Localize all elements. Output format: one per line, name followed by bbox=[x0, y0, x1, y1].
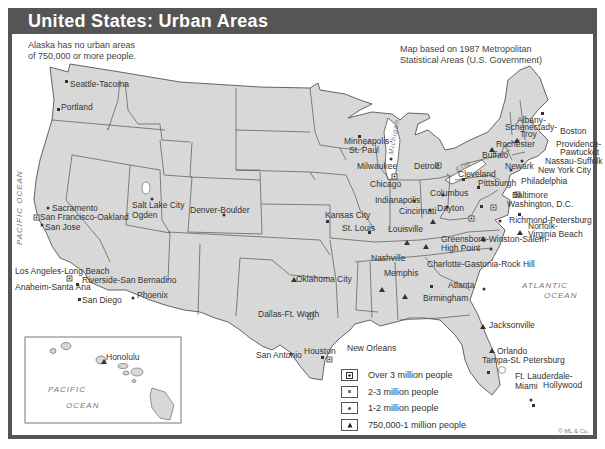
source-note-line-2: Statistical Areas (U.S. Government) bbox=[400, 55, 542, 66]
city-houston: Houston bbox=[304, 346, 336, 356]
source-note-line-1: Map based on 1987 Metropolitan bbox=[400, 44, 542, 55]
city-buffalo: Buffalo bbox=[482, 150, 509, 160]
city-dayton: Dayton bbox=[437, 203, 464, 213]
city-greensboro-2: High Point bbox=[441, 243, 481, 253]
city-pittsburgh: Pittsburgh bbox=[478, 178, 517, 188]
city-atlanta: Atlanta bbox=[448, 280, 475, 290]
city-birmingham: Birmingham bbox=[423, 293, 468, 303]
city-minneapolis-2: St. Paul bbox=[349, 145, 379, 155]
city-anaheim: Anaheim-Santa Ana bbox=[15, 282, 91, 292]
legend-symbol-small-square-icon bbox=[341, 386, 358, 398]
legend-row-over-3m: Over 3 million people bbox=[341, 367, 466, 384]
hawaii-pacific-label-1: PACIFIC bbox=[48, 385, 86, 394]
city-nyc: New York City bbox=[538, 165, 592, 175]
alaska-note-line-2: of 750,000 or more people. bbox=[28, 51, 136, 62]
city-tampa: Tampa-St. Petersburg bbox=[482, 355, 565, 365]
alaska-note: Alaska has no urban areas of 750,000 or … bbox=[28, 40, 136, 62]
city-charlotte: Charlotte-Gastonia-Rock Hill bbox=[427, 259, 535, 269]
legend-row-1-2m: 1-2 million people bbox=[341, 400, 466, 417]
city-st-louis: St. Louis bbox=[342, 223, 375, 233]
city-new-orleans: New Orleans bbox=[347, 343, 396, 353]
source-note: Map based on 1987 Metropolitan Statistic… bbox=[400, 44, 542, 66]
city-sf-oakland: San Francisco-Oakland bbox=[40, 212, 129, 222]
city-detroit: Detroit bbox=[414, 161, 440, 171]
legend-label: 750,000-1 million people bbox=[368, 420, 466, 430]
us-map: PACIFIC OCEAN ATLANTIC OCEAN Michigan L.… bbox=[0, 0, 605, 449]
alaska-note-line-1: Alaska has no urban areas bbox=[28, 40, 136, 51]
city-san-antonio: San Antonio bbox=[256, 350, 302, 360]
legend-label: 1-2 million people bbox=[368, 403, 439, 413]
city-oklahoma-city: Oklahoma City bbox=[296, 274, 352, 284]
city-riverside: Riverside-San Bernadino bbox=[82, 275, 177, 285]
city-san-diego: San Diego bbox=[82, 295, 122, 305]
city-milwaukee: Milwaukee bbox=[357, 161, 397, 171]
city-honolulu: Honolulu bbox=[106, 352, 140, 362]
hawaii-pacific-label-2: OCEAN bbox=[66, 401, 99, 410]
city-miami: Miami bbox=[515, 381, 538, 391]
city-dallas: Dallas-Ft. Worth bbox=[258, 309, 320, 319]
city-washington: Washington, D.C. bbox=[507, 199, 573, 209]
legend: Over 3 million people 2-3 million people… bbox=[341, 367, 466, 433]
copyright-credit: © ML & Co. bbox=[558, 428, 589, 434]
legend-row-2-3m: 2-3 million people bbox=[341, 384, 466, 401]
legend-symbol-square-dot-icon bbox=[341, 369, 358, 381]
city-albany-3: Troy bbox=[520, 129, 537, 139]
lake-okeechobee bbox=[499, 367, 506, 374]
city-san-jose: San Jose bbox=[45, 222, 81, 232]
pacific-ocean-label: PACIFIC OCEAN bbox=[15, 170, 24, 245]
city-cincinnati: Cincinnati bbox=[399, 206, 436, 216]
city-ft-lauderdale-2: Hollywood bbox=[543, 380, 582, 390]
atlantic-ocean-label-2: OCEAN bbox=[544, 291, 577, 300]
city-portland: Portland bbox=[61, 102, 93, 112]
city-indianapolis: Indianapolis bbox=[375, 195, 420, 205]
city-memphis: Memphis bbox=[384, 268, 418, 278]
great-salt-lake bbox=[142, 182, 150, 194]
city-slc-2: Ogden bbox=[132, 210, 158, 220]
city-chicago: Chicago bbox=[370, 179, 401, 189]
city-jacksonville: Jacksonville bbox=[489, 320, 535, 330]
atlantic-ocean-label-1: ATLANTIC bbox=[521, 281, 568, 290]
city-denver: Denver-Boulder bbox=[190, 205, 250, 215]
city-newark: Newark bbox=[505, 161, 535, 171]
legend-label: Over 3 million people bbox=[368, 370, 453, 380]
city-boston: Boston bbox=[560, 126, 587, 136]
city-columbus: Columbus bbox=[430, 188, 468, 198]
city-louisville: Louisville bbox=[388, 224, 423, 234]
city-slc-1: Salt Lake City bbox=[132, 200, 185, 210]
city-rochester: Rochester bbox=[496, 139, 535, 149]
city-philadelphia: Philadelphia bbox=[521, 176, 568, 186]
city-seattle: Seattle-Tacoma bbox=[70, 79, 129, 89]
legend-symbol-dot-icon bbox=[341, 402, 358, 414]
city-phoenix: Phoenix bbox=[137, 290, 168, 300]
city-nashville: Nashville bbox=[371, 253, 406, 263]
legend-row-750k-1m: 750,000-1 million people bbox=[341, 417, 466, 434]
legend-label: 2-3 million people bbox=[368, 387, 439, 397]
city-kansas-city: Kansas City bbox=[325, 210, 371, 220]
legend-symbol-triangle-icon bbox=[341, 419, 358, 431]
